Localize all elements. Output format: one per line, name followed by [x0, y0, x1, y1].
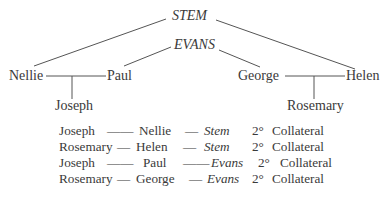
ancestor: Evans: [207, 171, 239, 187]
ancestor: Stem: [204, 123, 230, 139]
degree: 2°: [252, 139, 264, 155]
node-stem: STEM: [172, 8, 207, 24]
parent: George: [136, 171, 175, 187]
edge-stem-helen: [216, 20, 355, 69]
node-joseph: Joseph: [55, 98, 93, 114]
dash: —: [189, 171, 202, 187]
degree: 2°: [258, 155, 270, 171]
edge-evans-paul: [124, 47, 171, 66]
node-paul: Paul: [107, 68, 132, 84]
dash: ——: [183, 155, 209, 171]
parent: Helen: [136, 139, 168, 155]
ancestor: Evans: [211, 155, 243, 171]
person: Rosemary: [59, 139, 112, 155]
dash: —: [185, 123, 198, 139]
node-rosemary: Rosemary: [287, 98, 344, 114]
dash: ——: [107, 123, 133, 139]
node-evans: EVANS: [174, 37, 215, 53]
ancestor: Stem: [204, 139, 230, 155]
degree: 2°: [252, 171, 264, 187]
edge-evans-george: [219, 50, 260, 67]
person: Joseph: [59, 155, 95, 171]
parent: Nellie: [139, 123, 171, 139]
relation: Collateral: [272, 139, 324, 155]
dash: —: [183, 139, 196, 155]
dash: —: [117, 139, 130, 155]
parent: Paul: [143, 155, 166, 171]
person: Rosemary: [59, 171, 112, 187]
node-nellie: Nellie: [9, 68, 43, 84]
relation: Collateral: [272, 123, 324, 139]
degree: 2°: [252, 123, 264, 139]
relation: Collateral: [272, 171, 324, 187]
node-george: George: [238, 68, 279, 84]
person: Joseph: [59, 123, 95, 139]
dash: —: [117, 171, 130, 187]
relation: Collateral: [280, 155, 332, 171]
dash: ——: [107, 155, 133, 171]
node-helen: Helen: [346, 68, 379, 84]
edge-stem-nellie: [34, 19, 166, 66]
